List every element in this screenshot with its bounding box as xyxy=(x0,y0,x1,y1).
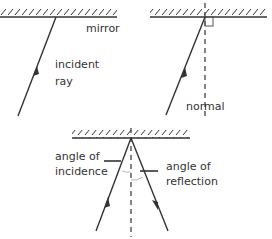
arrow-down-icon xyxy=(152,200,158,210)
incidence-label-1: angle of xyxy=(55,150,101,163)
arrow-up-icon xyxy=(104,197,110,208)
mirror-surface xyxy=(0,9,117,17)
angle-of-incidence-arc xyxy=(122,171,131,172)
reflection-label-1: angle of xyxy=(166,160,212,173)
mirror-label: mirror xyxy=(86,22,120,35)
incident-ray xyxy=(96,138,131,231)
reflection-label-2: reflection xyxy=(166,175,218,188)
panel-normal: normal xyxy=(150,3,267,120)
reflected-ray xyxy=(131,138,168,231)
incident-ray-label-2: ray xyxy=(55,75,73,88)
normal-label: normal xyxy=(186,100,225,113)
incidence-label-2: incidence xyxy=(55,165,108,178)
diagram-svg: mirror incident ray normal xyxy=(0,0,272,239)
angle-of-reflection-arc xyxy=(131,177,143,180)
incident-ray xyxy=(18,17,56,116)
reflection-diagram: mirror incident ray normal xyxy=(0,0,272,239)
mirror-surface xyxy=(150,9,267,17)
right-angle-marker xyxy=(205,17,213,26)
panel-angles: angle of incidence angle of reflection xyxy=(55,128,218,237)
incident-ray-label-1: incident xyxy=(55,58,100,71)
panel-mirror-incident-ray: mirror incident ray xyxy=(0,9,120,116)
